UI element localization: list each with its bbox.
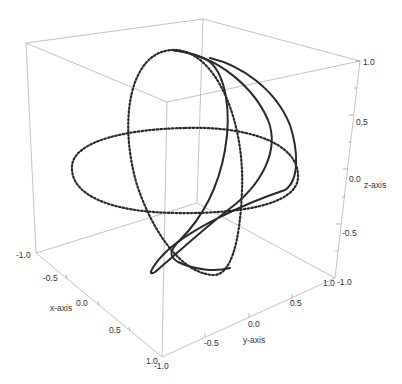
z-axis-labels: 1.0 0.5 0.0 z-axis -0.5 -1.0 xyxy=(337,57,386,287)
z-axis-ticks xyxy=(335,61,360,251)
y-tick-0.5: 0.5 xyxy=(290,298,302,308)
x-axis-label: x-axis xyxy=(50,303,72,313)
x-tick-neg1.0: -1.0 xyxy=(16,250,31,260)
x-tick-neg0.5: -0.5 xyxy=(43,273,58,283)
y-axis-labels: -1.0 -0.5 0.0 y-axis 0.5 1.0 xyxy=(154,278,335,371)
z-tick-neg1.0: -1.0 xyxy=(337,277,352,287)
y-axis-label: y-axis xyxy=(243,335,265,345)
z-axis-label: z-axis xyxy=(364,180,386,190)
x-tick-0.5: 0.5 xyxy=(109,325,121,335)
series-circle-vertical xyxy=(128,50,242,275)
z-tick-0.5: 0.5 xyxy=(356,117,368,127)
plot-3d: 1.0 0.5 0.0 z-axis -0.5 -1.0 -1.0 -0.5 0… xyxy=(0,0,402,384)
z-tick-neg0.5: -0.5 xyxy=(342,228,357,238)
z-tick-0.0: 0.0 xyxy=(349,174,361,184)
z-tick-1.0: 1.0 xyxy=(363,57,375,67)
x-tick-0.0: 0.0 xyxy=(76,298,88,308)
y-tick-1.0: 1.0 xyxy=(323,278,335,288)
x-axis-labels: -1.0 -0.5 0.0 x-axis 0.5 1.0 xyxy=(16,250,158,366)
y-tick-neg1.0: -1.0 xyxy=(154,361,169,371)
y-axis-ticks xyxy=(205,294,292,337)
series-solid-loop xyxy=(151,50,296,273)
y-tick-neg0.5: -0.5 xyxy=(204,338,219,348)
y-tick-0.0: 0.0 xyxy=(248,319,260,329)
